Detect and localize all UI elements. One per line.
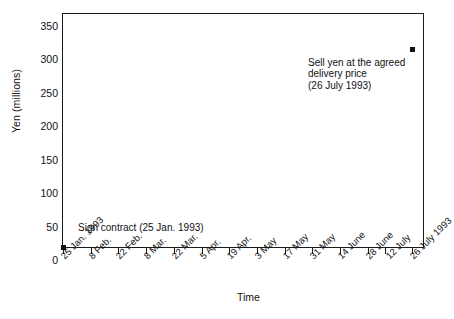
annotation-sign-line-1: Sign contract (25 Jan. 1993) <box>78 222 204 233</box>
y-tick-label-100: 100 <box>24 188 58 198</box>
y-tick-label-150: 150 <box>24 155 58 165</box>
data-point-sell-yen <box>410 47 415 52</box>
annotation-sign-contract: Sign contract (25 Jan. 1993) <box>78 222 204 233</box>
y-tick-label-200: 200 <box>24 121 58 131</box>
data-point-sign-contract <box>61 245 66 250</box>
annotation-sell-line-3: (26 July 1993) <box>308 80 405 91</box>
y-tick-label-350: 350 <box>24 21 58 31</box>
plot-area <box>62 13 424 248</box>
y-axis-tick-labels: 350 300 250 200 150 100 50 0 <box>18 13 58 248</box>
y-tick-label-50: 50 <box>24 222 58 232</box>
annotation-sell-yen: Sell yen at the agreed delivery price (2… <box>308 57 405 91</box>
annotation-sell-line-2: delivery price <box>308 68 405 79</box>
x-axis-title: Time <box>237 291 260 303</box>
y-tick-label-0: 0 <box>24 255 58 265</box>
y-tick-label-300: 300 <box>24 54 58 64</box>
annotation-sell-line-1: Sell yen at the agreed <box>308 57 405 68</box>
y-tick-label-250: 250 <box>24 88 58 98</box>
